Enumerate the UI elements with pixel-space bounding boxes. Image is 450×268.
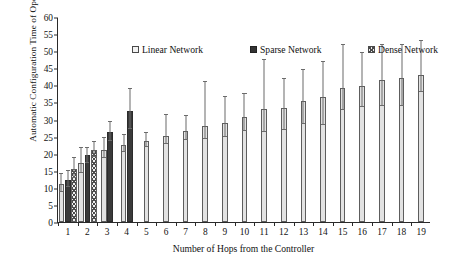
x-tick-mark xyxy=(294,222,295,226)
y-tick-mark xyxy=(54,35,58,36)
x-tick-label: 7 xyxy=(183,227,188,237)
error-bar-dense-hop-2 xyxy=(91,17,97,222)
x-tick-mark xyxy=(117,222,118,226)
x-tick-label: 13 xyxy=(299,227,308,237)
error-bar-sparse-hop-1 xyxy=(65,17,71,222)
legend-item-sparse[interactable]: Sparse Network xyxy=(250,44,322,55)
error-bar-linear-hop-3 xyxy=(101,17,107,222)
legend: Linear NetworkSparse NetworkDense Networ… xyxy=(132,42,450,56)
legend-swatch-dense-icon xyxy=(368,46,375,53)
y-tick-mark xyxy=(54,205,58,206)
y-tick-mark xyxy=(54,18,58,19)
y-tick-mark xyxy=(54,86,58,87)
legend-swatch-sparse-icon xyxy=(250,46,257,53)
y-tick-mark xyxy=(54,171,58,172)
figure: Automatic Configuration Time of OpenFlow… xyxy=(0,0,450,268)
x-tick-label: 11 xyxy=(260,227,269,237)
x-axis-label: Number of Hops from the Controller xyxy=(57,243,430,254)
error-bar-linear-hop-4 xyxy=(121,17,127,222)
x-tick-mark xyxy=(137,222,138,226)
x-tick-label: 6 xyxy=(164,227,169,237)
legend-label: Sparse Network xyxy=(260,44,322,55)
x-tick-label: 10 xyxy=(240,227,249,237)
x-tick-mark xyxy=(392,222,393,226)
x-tick-mark xyxy=(176,222,177,226)
x-tick-mark xyxy=(156,222,157,226)
x-tick-label: 17 xyxy=(377,227,386,237)
legend-item-linear[interactable]: Linear Network xyxy=(132,44,203,55)
x-tick-mark xyxy=(195,222,196,226)
x-tick-mark xyxy=(313,222,314,226)
x-tick-mark xyxy=(333,222,334,226)
x-tick-label: 12 xyxy=(279,227,288,237)
legend-swatch-linear-icon xyxy=(132,46,139,53)
x-tick-label: 3 xyxy=(105,227,110,237)
x-tick-mark xyxy=(254,222,255,226)
x-tick-label: 16 xyxy=(358,227,367,237)
x-tick-mark xyxy=(78,222,79,226)
error-bar-linear-hop-1 xyxy=(59,17,65,222)
legend-label: Linear Network xyxy=(142,44,203,55)
x-tick-label: 2 xyxy=(85,227,90,237)
x-tick-mark xyxy=(215,222,216,226)
x-tick-mark xyxy=(352,222,353,226)
x-tick-mark xyxy=(58,222,59,226)
x-tick-label: 9 xyxy=(223,227,228,237)
legend-item-dense[interactable]: Dense Network xyxy=(368,44,438,55)
y-tick-mark xyxy=(54,154,58,155)
error-bar-sparse-hop-2 xyxy=(85,17,91,222)
x-tick-label: 8 xyxy=(203,227,208,237)
x-tick-label: 19 xyxy=(416,227,425,237)
error-bar-dense-hop-1 xyxy=(71,17,77,222)
y-tick-mark xyxy=(54,103,58,104)
y-tick-mark xyxy=(54,188,58,189)
x-tick-mark xyxy=(274,222,275,226)
x-tick-mark xyxy=(411,222,412,226)
y-axis-label: Automatic Configuration Time of OpenFlow… xyxy=(20,0,46,142)
x-tick-label: 1 xyxy=(65,227,70,237)
x-tick-mark xyxy=(97,222,98,226)
legend-label: Dense Network xyxy=(378,44,438,55)
x-tick-mark xyxy=(372,222,373,226)
x-tick-mark xyxy=(235,222,236,226)
y-tick-mark xyxy=(54,120,58,121)
y-tick-mark xyxy=(54,69,58,70)
x-tick-label: 15 xyxy=(338,227,347,237)
x-tick-label: 5 xyxy=(144,227,149,237)
plot-area: 051015202530354045505560 123456789101112… xyxy=(57,18,430,223)
x-tick-label: 4 xyxy=(124,227,129,237)
y-tick-mark xyxy=(54,137,58,138)
error-bar-linear-hop-2 xyxy=(78,17,84,222)
error-bar-sparse-hop-3 xyxy=(107,17,113,222)
x-tick-label: 14 xyxy=(318,227,327,237)
x-tick-label: 18 xyxy=(397,227,406,237)
y-tick-mark xyxy=(54,52,58,53)
